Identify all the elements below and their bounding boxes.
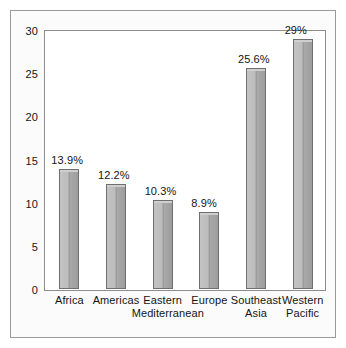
chart-figure: 051015202530 13.9%12.2%10.3%8.9%25.6%29%… xyxy=(0,0,346,348)
y-tick-label: 15 xyxy=(0,155,38,166)
bar[interactable] xyxy=(153,200,173,289)
y-tick-label: 5 xyxy=(0,241,38,252)
bar[interactable] xyxy=(246,68,266,289)
bar-series xyxy=(46,32,324,289)
y-tick-label: 10 xyxy=(0,198,38,209)
x-axis-label-line1: Africa xyxy=(55,294,84,306)
bar-value-label: 12.2% xyxy=(98,170,130,181)
y-tick-label: 0 xyxy=(0,285,38,296)
bar-slot xyxy=(93,30,140,289)
bar-value-label: 10.3% xyxy=(145,186,177,197)
bar[interactable] xyxy=(59,169,79,289)
x-axis-label: WesternPacific xyxy=(272,294,334,320)
bar-value-label: 8.9% xyxy=(191,198,216,209)
y-tick-label: 25 xyxy=(0,69,38,80)
bar-top-face xyxy=(293,39,313,42)
x-axis-label-line1: Europe xyxy=(191,294,227,306)
bar-value-label: 25.6% xyxy=(238,54,270,65)
x-axis-label-line1: Eastern xyxy=(143,294,182,306)
x-axis-label-line2: Mediterranean xyxy=(132,307,194,320)
bar-slot xyxy=(186,30,233,289)
y-tick-label: 30 xyxy=(0,26,38,37)
bar[interactable] xyxy=(199,212,219,289)
plot-area xyxy=(44,30,326,291)
bar[interactable] xyxy=(106,184,126,289)
bar-value-label: 29% xyxy=(285,25,307,36)
bar-top-face xyxy=(106,184,126,187)
y-tick-label: 20 xyxy=(0,112,38,123)
bar-top-face xyxy=(246,68,266,71)
bar[interactable] xyxy=(293,39,313,289)
x-axis-label-line1: Western xyxy=(282,294,323,306)
bar-top-face xyxy=(199,212,219,215)
bar-slot xyxy=(279,30,326,289)
bar-value-label: 13.9% xyxy=(51,155,83,166)
x-axis-label-line2: Pacific xyxy=(272,307,334,320)
bar-slot xyxy=(139,30,186,289)
bar-top-face xyxy=(59,169,79,172)
bar-slot xyxy=(233,30,280,289)
x-axis-labels: AfricaAmericasEasternMediterraneanEurope… xyxy=(45,294,325,334)
bar-top-face xyxy=(153,200,173,203)
